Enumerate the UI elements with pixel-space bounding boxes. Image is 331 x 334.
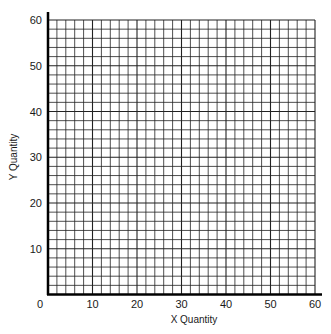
origin-label: 0 — [37, 298, 43, 310]
x-tick-label: 20 — [131, 298, 143, 310]
x-tick-label: 30 — [175, 298, 187, 310]
x-tick-labels: 102030405060 — [86, 298, 321, 310]
x-tick-label: 60 — [309, 298, 321, 310]
y-tick-label: 30 — [30, 151, 42, 163]
y-tick-label: 50 — [30, 60, 42, 72]
y-tick-label: 20 — [30, 197, 42, 209]
x-tick-label: 40 — [220, 298, 232, 310]
y-axis-label: Y Quantity — [8, 134, 19, 181]
x-axis-label: X Quantity — [171, 314, 218, 325]
grid — [48, 20, 315, 295]
x-tick-label: 50 — [264, 298, 276, 310]
y-tick-label: 60 — [30, 14, 42, 26]
y-tick-label: 40 — [30, 106, 42, 118]
blank-graph: 102030405060 102030405060 0 X Quantity Y… — [0, 0, 331, 334]
y-tick-label: 10 — [30, 243, 42, 255]
x-tick-label: 10 — [86, 298, 98, 310]
y-tick-labels: 102030405060 — [30, 14, 42, 255]
